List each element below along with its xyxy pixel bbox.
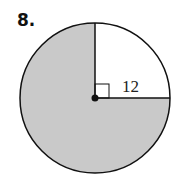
radius-label: 12 [122,77,139,96]
circle-diagram: 12 [0,0,186,178]
center-point [92,95,99,102]
